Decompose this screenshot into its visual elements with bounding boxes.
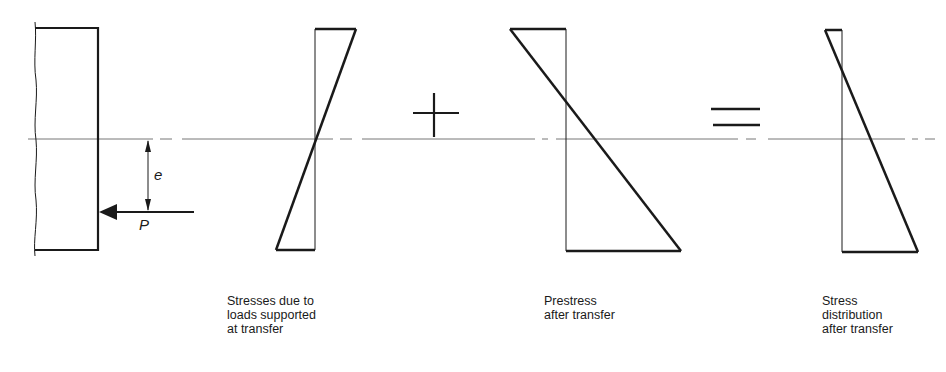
diagram-prestress-after-transfer <box>510 29 681 251</box>
force-label: P <box>139 216 149 233</box>
caption-stress-distribution: Stress distribution after transfer <box>822 294 893 336</box>
caption-loads-at-transfer: Stresses due to loads supported at trans… <box>227 294 316 336</box>
eccentricity-label: e <box>154 166 162 183</box>
stress-diagram-figure <box>0 0 946 372</box>
caption-line: after transfer <box>544 308 615 322</box>
caption-line: Stress <box>822 294 893 308</box>
caption-line: loads supported <box>227 308 316 322</box>
caption-line: Stresses due to <box>227 294 316 308</box>
caption-line: distribution <box>822 308 893 322</box>
caption-line: Prestress <box>544 294 615 308</box>
caption-prestress-after-transfer: Prestress after transfer <box>544 294 615 322</box>
caption-line: at transfer <box>227 322 316 336</box>
equals-operator <box>711 109 760 125</box>
caption-line: after transfer <box>822 322 893 336</box>
diagram-stress-distribution <box>825 30 918 252</box>
plus-operator <box>413 93 459 137</box>
eccentricity-dimension <box>145 140 151 211</box>
